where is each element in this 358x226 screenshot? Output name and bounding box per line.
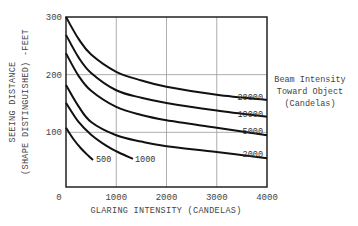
x-tick-label: 3000 — [206, 193, 228, 203]
legend-title: Beam Intensity Toward Object (Candelas) — [274, 75, 345, 109]
legend-title-line1: Beam Intensity — [274, 75, 345, 85]
series-label-2000: 2000 — [243, 150, 263, 160]
series-label-1000: 1000 — [135, 155, 155, 165]
y-tick-label: 200 — [46, 71, 62, 81]
y-axis-label-line2: (SHAPE DISTINGUISHED) -FEET — [21, 29, 31, 175]
x-tick-label: 0 — [56, 193, 61, 203]
chart: 2000010000500020001000500 01000200030004… — [0, 0, 358, 226]
curve-1000 — [66, 103, 133, 159]
series-label-500: 500 — [96, 155, 111, 165]
x-tick-label: 4000 — [256, 193, 278, 203]
x-axis-label: GLARING INTENSITY (CANDELAS) — [90, 206, 241, 216]
series-label-5000: 5000 — [243, 127, 263, 137]
legend-title-line2: Toward Object — [277, 87, 343, 97]
x-tick-label: 1000 — [105, 193, 127, 203]
y-tick-label: 100 — [46, 128, 62, 138]
x-tick-label: 2000 — [156, 193, 178, 203]
series-label-20000: 20000 — [237, 93, 263, 103]
y-axis-label-line1: SEEING DISTANCE — [8, 61, 18, 142]
y-tick-label: 300 — [46, 13, 62, 23]
legend-title-line3: (Candelas) — [284, 99, 335, 109]
series-label-10000: 10000 — [237, 110, 263, 120]
